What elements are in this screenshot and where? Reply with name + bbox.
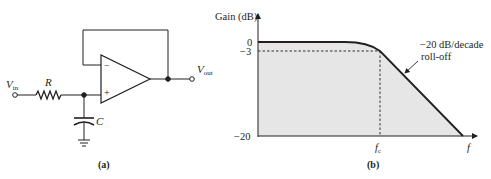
rolloff-pointer-arrow	[405, 61, 418, 73]
frequency-response-panel-b	[258, 14, 477, 137]
op-amp-minus-label: −	[104, 60, 110, 71]
vin-label: Vin	[6, 78, 19, 92]
vin-terminal-icon	[13, 93, 18, 98]
ground-icon	[78, 140, 90, 146]
x-tick-fc: fc	[375, 142, 381, 155]
y-axis-label: Gain (dB)	[215, 11, 258, 23]
x-tick-f: f	[467, 142, 472, 153]
rolloff-annotation-line2: roll-off	[421, 51, 452, 62]
rolloff-annotation-line1: −20 dB/decade	[420, 39, 484, 50]
low-pass-filter-figure: Vin R C − + Vout (a) Gain (dB) 0 −3 −20 …	[0, 0, 491, 179]
vout-terminal-icon	[190, 77, 195, 82]
op-amp-plus-label: +	[104, 87, 110, 98]
panel-a-caption: (a)	[98, 159, 110, 171]
y-tick-minus20: −20	[234, 131, 250, 142]
y-tick-minus3: −3	[240, 46, 251, 57]
resistor-icon	[36, 91, 61, 99]
vout-label: Vout	[197, 63, 213, 77]
output-node-dot-icon	[166, 77, 171, 82]
panel-b-caption: (b)	[367, 159, 379, 171]
capacitor-label: C	[96, 115, 104, 127]
resistor-label: R	[44, 76, 52, 88]
